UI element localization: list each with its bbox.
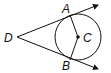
radius-cb	[70, 37, 78, 60]
label-b: B	[62, 59, 70, 73]
label-a: A	[61, 2, 70, 16]
center-point	[76, 35, 80, 39]
radius-ca	[70, 15, 78, 37]
tangent-diagram: A B C D	[0, 0, 111, 73]
label-c: C	[83, 31, 92, 45]
label-d: D	[4, 31, 13, 45]
